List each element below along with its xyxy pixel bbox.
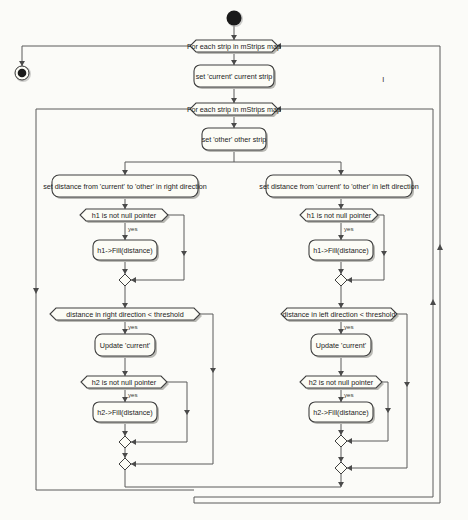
- right-update-current: Update 'current': [95, 334, 157, 358]
- loop-inner: For each strip in mStrips map: [187, 103, 281, 117]
- action-set-other: set 'other' other strip: [202, 128, 268, 152]
- edge-inner-loop-back: [194, 109, 433, 497]
- edge-right-merge2-to-join: [125, 470, 341, 487]
- right-h1-fill: h1->Fill(distance): [93, 240, 159, 262]
- left-update-current-label: Update 'current': [316, 341, 367, 350]
- edge-inner-loop-exit: [36, 109, 194, 490]
- right-threshold-check-label: distance in right direction < threshold: [66, 310, 183, 319]
- action-set-current: set 'current' current strip: [194, 65, 276, 89]
- edges: [22, 26, 440, 503]
- loop-inner-label: For each strip in mStrips map: [187, 105, 281, 114]
- right-merge-h2: [119, 436, 131, 448]
- right-h2-fill: h2->Fill(distance): [93, 402, 159, 424]
- left-h2-yes-label: yes: [344, 391, 354, 398]
- left-set-distance: set distance from 'current' to 'other' i…: [259, 175, 418, 199]
- loop-outer: For each strip in mStrips map: [187, 40, 281, 54]
- left-merge-threshold: [335, 462, 347, 474]
- edge-set-other-fork: [125, 150, 341, 175]
- right-set-distance: set distance from 'current' to 'other' i…: [43, 175, 207, 199]
- left-merge-h2: [335, 435, 347, 447]
- end-node: [15, 66, 31, 82]
- edge-outer-loop-exit-to-end: [22, 46, 192, 66]
- left-h1-check: h1 is not null pointer yes: [300, 209, 380, 232]
- right-h2-fill-label: h2->Fill(distance): [97, 408, 152, 417]
- left-threshold-check: distance in left direction < threshold y…: [281, 308, 399, 330]
- left-threshold-yes-label: yes: [344, 323, 354, 330]
- right-h2-check-label: h2 is not null pointer: [92, 378, 157, 387]
- left-threshold-check-label: distance in left direction < threshold: [283, 310, 396, 319]
- right-merge-h1: [119, 274, 131, 286]
- left-set-distance-label: set distance from 'current' to 'other' i…: [259, 182, 418, 191]
- left-h2-fill: h2->Fill(distance): [309, 402, 375, 424]
- loop-outer-label: For each strip in mStrips map: [187, 42, 281, 51]
- left-h1-fill: h1->Fill(distance): [309, 240, 375, 262]
- left-h1-fill-label: h1->Fill(distance): [313, 246, 368, 255]
- right-merge-threshold: [119, 458, 131, 470]
- left-h2-check: h2 is not null pointer yes: [300, 376, 384, 398]
- right-h1-fill-label: h1->Fill(distance): [97, 246, 152, 255]
- left-merge-h1: [335, 274, 347, 286]
- right-set-distance-label: set distance from 'current' to 'other' i…: [43, 182, 207, 191]
- left-update-current: Update 'current': [311, 334, 373, 358]
- left-h2-fill-label: h2->Fill(distance): [313, 408, 368, 417]
- right-threshold-yes-label: yes: [128, 323, 138, 330]
- stray-mark: ı: [382, 74, 385, 84]
- right-h1-check-label: h1 is not null pointer: [92, 211, 157, 220]
- left-h2-check-label: h2 is not null pointer: [309, 378, 374, 387]
- left-h1-check-label: h1 is not null pointer: [307, 211, 372, 220]
- start-node: [227, 11, 244, 28]
- right-h1-yes-label: yes: [128, 225, 138, 232]
- right-h2-yes-label: yes: [128, 391, 138, 398]
- action-set-current-label: set 'current' current strip: [196, 72, 273, 81]
- activity-diagram: For each strip in mStrips map For each s…: [0, 0, 468, 520]
- right-update-current-label: Update 'current': [100, 341, 151, 350]
- action-set-other-label: set 'other' other strip: [202, 135, 267, 144]
- right-threshold-check: distance in right direction < threshold …: [50, 308, 202, 330]
- left-h1-yes-label: yes: [344, 225, 354, 232]
